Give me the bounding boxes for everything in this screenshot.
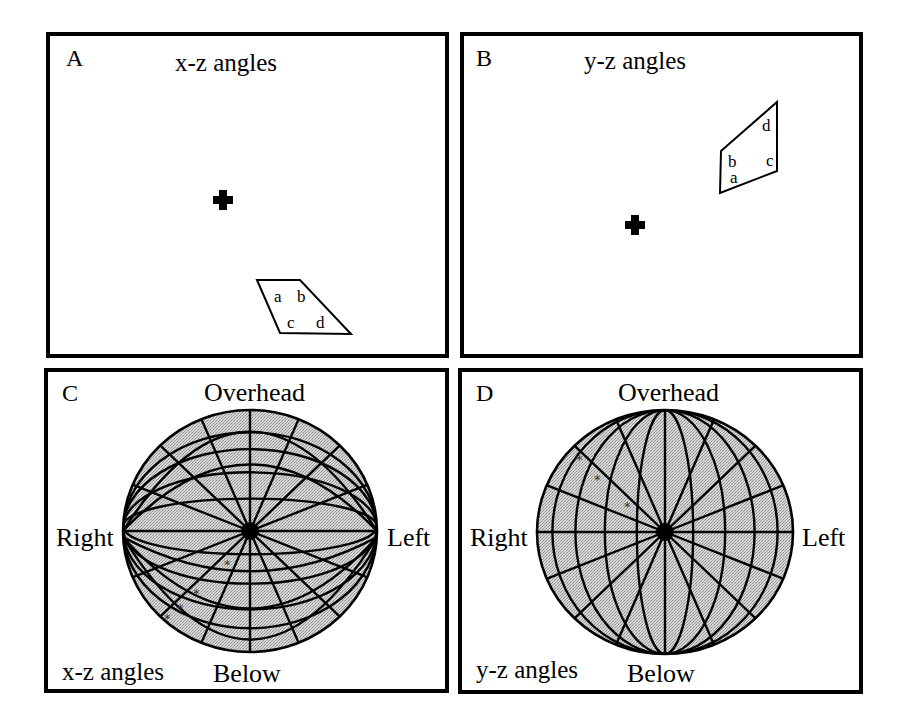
- fixation-cross-icon: [625, 215, 645, 235]
- x-z-angle-globe: ****: [117, 404, 384, 658]
- target-quadrilateral: abcd: [257, 280, 351, 334]
- svg-text:c: c: [287, 313, 295, 332]
- svg-text:a: a: [730, 168, 738, 187]
- fixation-cross-icon: [213, 190, 233, 210]
- svg-text:*: *: [177, 601, 184, 616]
- svg-text:*: *: [594, 472, 601, 487]
- svg-text:b: b: [297, 287, 306, 306]
- svg-text:*: *: [224, 557, 231, 572]
- svg-text:*: *: [576, 452, 583, 467]
- svg-text:*: *: [164, 611, 171, 626]
- figure-graphics: abcd dbca **** ***: [0, 0, 905, 726]
- svg-text:*: *: [193, 586, 200, 601]
- svg-text:d: d: [762, 116, 771, 135]
- target-quadrilateral: dbca: [720, 102, 777, 193]
- svg-text:a: a: [274, 287, 282, 306]
- svg-text:c: c: [766, 151, 774, 170]
- svg-text:d: d: [316, 313, 325, 332]
- y-z-angle-globe: ***: [531, 404, 800, 660]
- svg-text:*: *: [624, 499, 631, 514]
